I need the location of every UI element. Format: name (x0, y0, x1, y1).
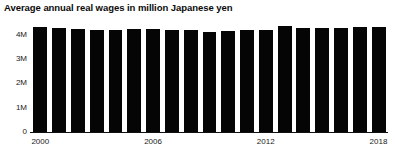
bar (315, 28, 329, 133)
chart-title: Average annual real wages in million Jap… (4, 2, 232, 14)
bar (127, 29, 141, 133)
bar (71, 29, 85, 133)
x-axis-tick-label: 2006 (144, 137, 162, 147)
bar (109, 30, 123, 133)
x-axis-tick-label: 2018 (370, 137, 388, 147)
bar (33, 27, 47, 133)
bar (221, 31, 235, 133)
y-axis-tick-label: 0 (23, 128, 27, 136)
x-axis-line (30, 132, 388, 133)
bar (90, 30, 104, 133)
bar-chart: Average annual real wages in million Jap… (0, 0, 395, 157)
bar (203, 32, 217, 133)
bar (372, 27, 386, 133)
y-axis-tick-label: 3M (16, 55, 27, 63)
bar (296, 28, 310, 133)
bar (259, 30, 273, 133)
x-axis: 2000200620122018 (0, 137, 395, 151)
bar (240, 30, 254, 133)
bar (353, 27, 367, 133)
y-axis-tick-label: 4M (16, 31, 27, 39)
x-axis-tick-label: 2000 (31, 137, 49, 147)
y-axis-tick-label: 1M (16, 104, 27, 112)
x-axis-tick-label: 2012 (257, 137, 275, 147)
bar (278, 26, 292, 133)
bar (165, 30, 179, 133)
plot-area (31, 16, 388, 133)
bar (334, 28, 348, 133)
y-axis: 01M2M3M4M (0, 0, 27, 157)
bar (184, 30, 198, 133)
bar (146, 29, 160, 133)
bar (52, 28, 66, 133)
y-axis-tick-label: 2M (16, 79, 27, 87)
